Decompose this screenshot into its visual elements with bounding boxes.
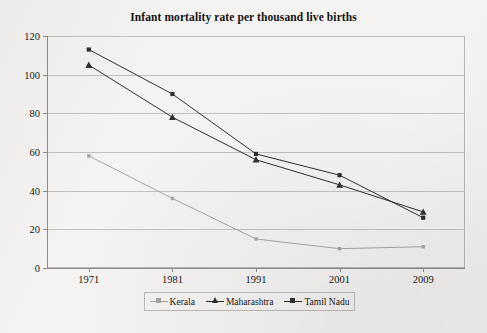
x-tick-label: 2001 xyxy=(310,274,370,285)
data-point-triangle xyxy=(169,114,176,120)
series-tamil-nadu xyxy=(87,47,426,219)
legend-square-icon xyxy=(156,298,161,303)
y-tick-mark xyxy=(43,268,47,269)
series-kerala xyxy=(87,154,425,250)
legend-label: Kerala xyxy=(170,297,195,307)
legend-square-icon xyxy=(290,298,295,303)
chart-title: Infant mortality rate per thousand live … xyxy=(0,11,487,23)
x-tick-mark xyxy=(89,268,90,272)
series-line xyxy=(89,50,423,218)
y-tick-label: 100 xyxy=(6,69,40,80)
data-point-square xyxy=(87,47,91,51)
data-point-square xyxy=(87,154,90,157)
x-tick-label: 1981 xyxy=(142,274,202,285)
legend-marker-icon xyxy=(150,297,168,306)
y-tick-label: 40 xyxy=(6,185,40,196)
legend-entry-kerala[interactable]: Kerala xyxy=(150,297,195,307)
chart-page: Infant mortality rate per thousand live … xyxy=(0,0,487,333)
y-tick-label: 60 xyxy=(6,147,40,158)
x-tick-mark xyxy=(172,268,173,272)
series-maharashtra xyxy=(85,62,426,215)
legend-triangle-icon xyxy=(212,297,218,303)
x-tick-label: 1971 xyxy=(59,274,119,285)
data-point-triangle xyxy=(253,156,260,162)
legend-entry-maharashtra[interactable]: Maharashtra xyxy=(206,297,273,307)
legend-marker-icon xyxy=(284,297,302,306)
x-tick-mark xyxy=(340,268,341,272)
legend-entry-tamil-nadu[interactable]: Tamil Nadu xyxy=(284,297,349,307)
x-tick-mark xyxy=(423,268,424,272)
y-tick-label: 120 xyxy=(6,31,40,42)
data-point-triangle xyxy=(85,62,92,68)
data-point-square xyxy=(338,247,341,250)
y-tick-label: 0 xyxy=(6,263,40,274)
series-line xyxy=(89,65,423,212)
data-point-square xyxy=(422,245,425,248)
series-line xyxy=(89,156,423,249)
x-tick-mark xyxy=(256,268,257,272)
legend-label: Maharashtra xyxy=(226,297,273,307)
data-point-square xyxy=(254,152,258,156)
data-point-square xyxy=(171,197,174,200)
y-tick-label: 20 xyxy=(6,224,40,235)
legend-marker-icon xyxy=(206,297,224,306)
x-tick-label: 2009 xyxy=(393,274,453,285)
data-point-square xyxy=(254,237,257,240)
series-layer xyxy=(47,36,465,268)
data-point-square xyxy=(421,216,425,220)
data-point-square xyxy=(338,173,342,177)
chart-legend: KeralaMaharashtraTamil Nadu xyxy=(144,292,355,311)
x-tick-label: 1991 xyxy=(226,274,286,285)
legend-label: Tamil Nadu xyxy=(304,297,349,307)
y-tick-label: 80 xyxy=(6,108,40,119)
data-point-square xyxy=(170,92,174,96)
